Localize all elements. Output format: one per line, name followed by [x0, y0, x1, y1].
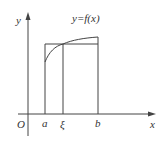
x-axis-label: x [149, 118, 155, 130]
origin-label: O [17, 118, 25, 130]
point-xi-label: ξ [60, 118, 65, 131]
curve-f [45, 37, 98, 62]
point-b-label: b [95, 117, 101, 129]
x-axis-arrow-icon [148, 112, 156, 117]
function-label: y=f(x) [71, 12, 100, 25]
y-axis-label: y [15, 14, 21, 26]
integral-mean-value-diagram: y=f(x) y x O a ξ b [0, 0, 162, 142]
y-axis-arrow-icon [26, 12, 31, 20]
point-a-label: a [42, 117, 48, 129]
